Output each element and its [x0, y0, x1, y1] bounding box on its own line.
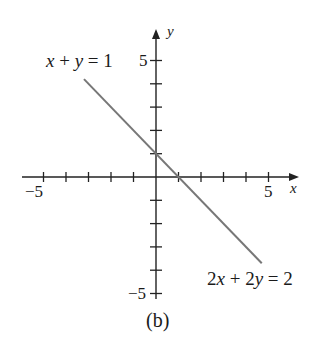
- x-axis-label: x: [289, 180, 297, 196]
- y-tick-label-5: 5: [139, 51, 148, 70]
- chart: y x −5 5 5 −5 x + y = 1 2x + 2y = 2 (b): [0, 0, 322, 353]
- y-axis-arrow-icon: [152, 29, 160, 39]
- equation-label-top: x + y = 1: [45, 50, 113, 71]
- y-tick-label-neg5: −5: [128, 284, 146, 303]
- line-x-plus-y-equals-1: [84, 79, 262, 263]
- y-axis-label: y: [165, 23, 174, 39]
- figure-caption: (b): [146, 309, 169, 332]
- x-tick-label-5: 5: [264, 182, 273, 201]
- x-tick-label-neg5: −5: [25, 182, 43, 201]
- x-axis: [22, 172, 299, 182]
- y-axis: [150, 29, 162, 299]
- equation-label-bottom: 2x + 2y = 2: [207, 268, 293, 289]
